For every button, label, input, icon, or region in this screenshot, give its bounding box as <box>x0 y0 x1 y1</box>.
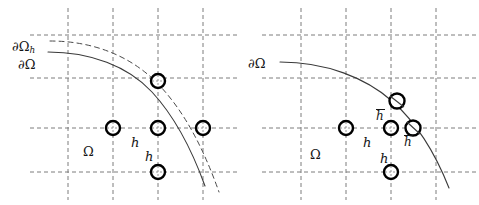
label-spacing-cut-vertical: h <box>376 110 384 122</box>
panel-right-canvas <box>240 0 479 205</box>
uniform-grid-panel: ∂Ωh ∂Ω Ω h h <box>0 0 239 205</box>
panel-left-canvas <box>0 0 239 205</box>
label-exact-boundary: ∂Ω <box>248 57 266 70</box>
grid-lines <box>30 8 238 200</box>
label-spacing-vertical: h <box>145 150 153 163</box>
label-spacing-horizontal: h <box>131 136 139 149</box>
cut-cell-grid-panel: ∂Ω Ω h h h h <box>240 0 479 205</box>
exact-boundary-curve <box>280 62 449 188</box>
discrete-boundary-curve <box>50 41 219 192</box>
label-domain-omega: Ω <box>310 148 321 161</box>
label-domain-omega: Ω <box>83 145 94 158</box>
grid-lines <box>262 8 476 200</box>
exact-boundary-curve <box>48 52 205 186</box>
figure-root: ∂Ωh ∂Ω Ω h h <box>0 0 479 205</box>
label-exact-boundary: ∂Ω <box>18 58 36 71</box>
label-spacing-vertical: h <box>380 152 388 165</box>
label-discrete-boundary: ∂Ωh <box>12 40 35 55</box>
label-spacing-horizontal: h <box>363 136 371 149</box>
label-spacing-cut-horizontal: h <box>404 136 412 148</box>
